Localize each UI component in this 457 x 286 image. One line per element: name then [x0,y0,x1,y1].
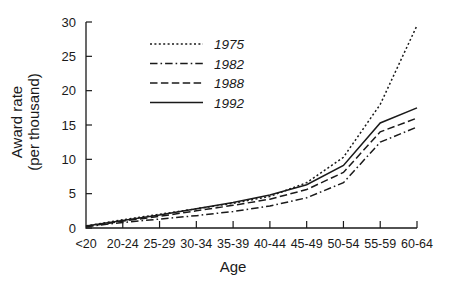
y-tick-label: 15 [62,118,76,133]
axis-frame [86,22,417,228]
series-line-1975 [86,25,417,226]
chart-figure: 051015202530 <2020-2425-2930-3435-3940-4… [0,0,457,286]
x-tick-label: 60-64 [401,237,433,251]
x-tick-label: 50-54 [327,237,359,251]
line-chart: 051015202530 <2020-2425-2930-3435-3940-4… [0,0,457,286]
series-line-1982 [86,127,417,227]
y-axis-title-line-2: (per thousand) [25,73,42,171]
x-tick-label: 40-44 [254,237,286,251]
x-tick-label: 55-59 [364,237,396,251]
x-axis-title: Age [220,258,247,275]
data-series-group [86,25,417,226]
x-tick-label: 30-34 [180,237,212,251]
x-tick-label: 35-39 [217,237,249,251]
y-axis-tick-marks [86,22,92,228]
y-axis-title-line-1: Award rate [8,86,25,158]
y-tick-label: 10 [62,152,76,167]
x-tick-label: 25-29 [144,237,176,251]
y-tick-label: 25 [62,49,76,64]
legend-label-1992: 1992 [214,96,245,111]
legend-label-1982: 1982 [214,57,245,72]
x-tick-label: 20-24 [107,237,139,251]
y-tick-label: 30 [62,15,76,30]
series-line-1988 [86,118,417,227]
y-axis-tick-labels: 051015202530 [62,15,76,236]
x-axis-tick-marks [123,221,417,228]
y-tick-label: 0 [69,221,76,236]
x-tick-label: 45-49 [291,237,323,251]
legend-label-1988: 1988 [214,76,245,91]
x-tick-label: <20 [75,237,96,251]
y-tick-label: 20 [62,83,76,98]
chart-legend: 1975198219881992 [150,37,245,111]
x-axis-tick-labels: <2020-2425-2930-3435-3940-4445-4950-5455… [75,237,433,251]
legend-label-1975: 1975 [214,37,245,52]
y-tick-label: 5 [69,186,76,201]
